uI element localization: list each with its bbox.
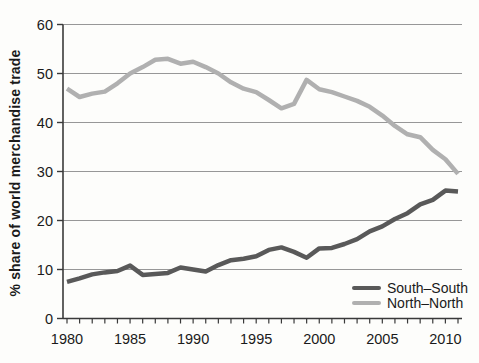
x-tick-label: 2010	[429, 331, 461, 347]
x-tick-label: 2005	[366, 331, 398, 347]
x-tick-label: 1995	[240, 331, 272, 347]
legend-item-south-south: South–South	[352, 281, 468, 295]
legend-label-north-north: North–North	[387, 295, 463, 311]
chart: % share of world merchandise trade 01020…	[0, 0, 479, 363]
y-tick-label: 20	[37, 213, 53, 229]
x-tick-label: 1985	[114, 331, 146, 347]
y-tick-label: 10	[37, 262, 53, 278]
y-tick-label: 50	[37, 66, 53, 82]
south-south-line-swatch	[352, 286, 381, 291]
x-tick-label: 1980	[51, 331, 83, 347]
legend-item-north-north: North–North	[352, 296, 468, 310]
x-tick-label: 2000	[303, 331, 335, 347]
legend: South–South North–North	[352, 281, 468, 311]
north-north-line-swatch	[352, 301, 381, 306]
north-north-line	[67, 59, 458, 174]
y-tick-label: 60	[37, 17, 53, 33]
legend-label-south-south: South–South	[387, 280, 468, 296]
y-tick-label: 30	[37, 164, 53, 180]
x-tick-label: 1990	[177, 331, 209, 347]
south-south-line	[67, 191, 458, 282]
y-tick-label: 0	[45, 311, 53, 327]
y-tick-label: 40	[37, 115, 53, 131]
